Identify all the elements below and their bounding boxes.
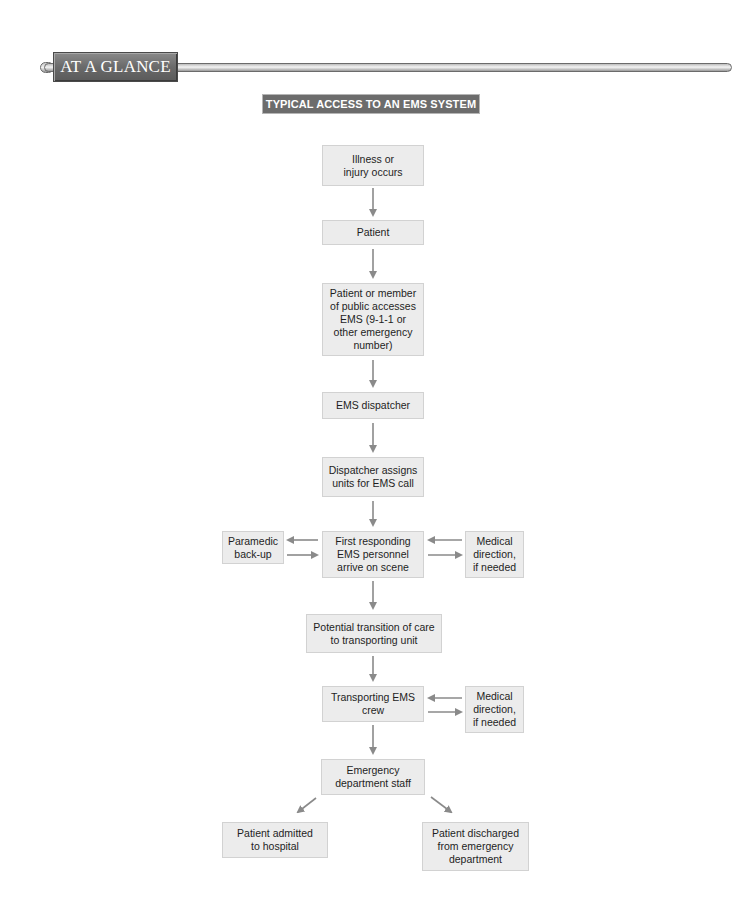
node-patient: Patient (322, 220, 424, 245)
node-dispatcher-assigns: Dispatcher assigns units for EMS call (322, 457, 424, 497)
node-illness: Illness or injury occurs (322, 145, 424, 186)
node-patient-discharged: Patient discharged from emergency depart… (422, 822, 529, 871)
node-transition-of-care: Potential transition of care to transpor… (306, 614, 442, 653)
node-ed-staff: Emergency department staff (321, 759, 425, 795)
node-medical-direction-1: Medical direction, if needed (465, 531, 524, 578)
node-medical-direction-2: Medical direction, if needed (465, 686, 524, 733)
node-access-ems: Patient or member of public accesses EMS… (322, 283, 424, 356)
node-first-responding: First responding EMS personnel arrive on… (322, 531, 424, 578)
node-ems-dispatcher: EMS dispatcher (322, 392, 424, 419)
node-patient-admitted: Patient admitted to hospital (222, 822, 328, 858)
node-paramedic-backup: Paramedic back-up (222, 531, 284, 564)
node-transporting-crew: Transporting EMS crew (322, 686, 424, 722)
